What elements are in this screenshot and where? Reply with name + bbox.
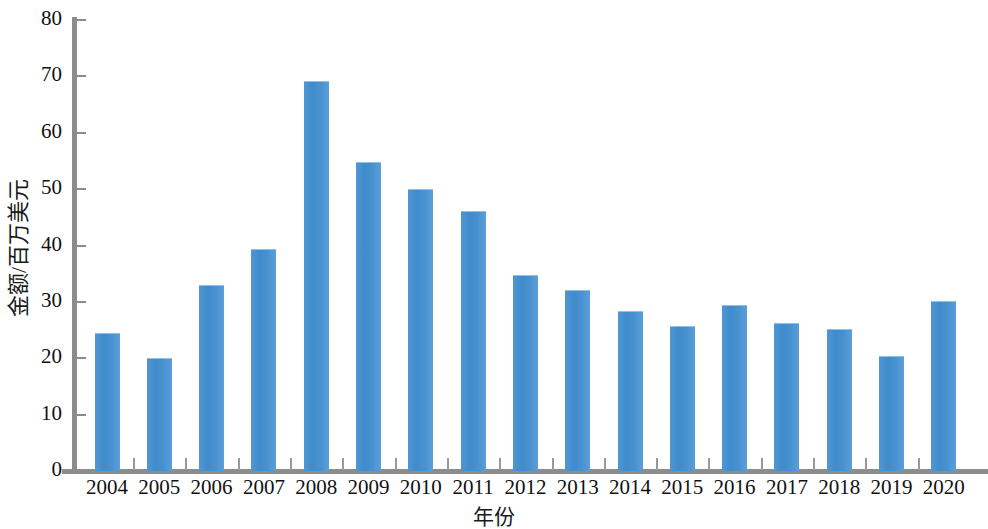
x-axis-tick-label: 2013 (548, 477, 608, 498)
x-axis-title: 年份 (0, 500, 988, 529)
bar (147, 358, 172, 471)
bar (95, 333, 120, 471)
bar (931, 301, 956, 471)
x-axis-tick-label: 2009 (339, 477, 399, 498)
x-axis-tick-mark (185, 458, 187, 470)
x-axis-tick-mark (447, 458, 449, 470)
x-axis-tick-label: 2006 (182, 477, 242, 498)
x-axis-tick-mark (865, 458, 867, 470)
x-axis-tick-mark (604, 458, 606, 470)
bar (774, 323, 799, 471)
x-axis-tick-label: 2018 (809, 477, 869, 498)
y-axis-tick-mark (77, 245, 86, 247)
x-axis-tick-mark (238, 458, 240, 470)
x-axis-tick-mark (656, 458, 658, 470)
bar (304, 81, 329, 471)
bar (722, 305, 747, 471)
x-axis-tick-label: 2011 (443, 477, 503, 498)
x-axis-tick-mark (813, 458, 815, 470)
bar (565, 290, 590, 471)
bar-chart: 金额/百万美元 80706050403020100 年份 20042005200… (0, 0, 988, 529)
x-axis-tick-label: 2016 (705, 477, 765, 498)
bar (879, 356, 904, 471)
x-axis-tick-mark (552, 458, 554, 470)
y-axis-tick-mark (77, 301, 86, 303)
x-axis-tick-label: 2019 (862, 477, 922, 498)
x-axis-tick-label: 2004 (77, 477, 137, 498)
bar (827, 329, 852, 471)
x-axis-tick-mark (290, 458, 292, 470)
y-axis-tick-mark (77, 19, 86, 21)
x-axis-tick-label: 2015 (652, 477, 712, 498)
x-axis-tick-mark (708, 458, 710, 470)
y-axis-tick-mark (77, 132, 86, 134)
x-axis-tick-label: 2005 (129, 477, 189, 498)
x-axis-tick-mark (918, 458, 920, 470)
bar (356, 162, 381, 471)
y-axis-tick-mark (77, 188, 86, 190)
bar (408, 189, 433, 471)
x-axis-tick-label: 2014 (600, 477, 660, 498)
bars-layer (0, 0, 988, 529)
y-axis-tick-mark (77, 357, 86, 359)
x-axis-tick-label: 2020 (914, 477, 974, 498)
bar (199, 285, 224, 471)
bar (618, 311, 643, 471)
x-axis-tick-label: 2008 (286, 477, 346, 498)
bar (513, 275, 538, 471)
bar (251, 249, 276, 471)
x-axis-tick-mark (395, 458, 397, 470)
x-axis-tick-label: 2010 (391, 477, 451, 498)
x-axis-tick-mark (133, 458, 135, 470)
x-axis-tick-label: 2017 (757, 477, 817, 498)
y-axis-tick-mark (77, 75, 86, 77)
bar (670, 326, 695, 471)
x-axis-tick-mark (761, 458, 763, 470)
y-axis-tick-mark (77, 414, 86, 416)
x-axis-tick-label: 2007 (234, 477, 294, 498)
x-axis-tick-mark (342, 458, 344, 470)
x-axis-tick-label: 2012 (495, 477, 555, 498)
bar (461, 211, 486, 471)
x-axis-tick-mark (499, 458, 501, 470)
